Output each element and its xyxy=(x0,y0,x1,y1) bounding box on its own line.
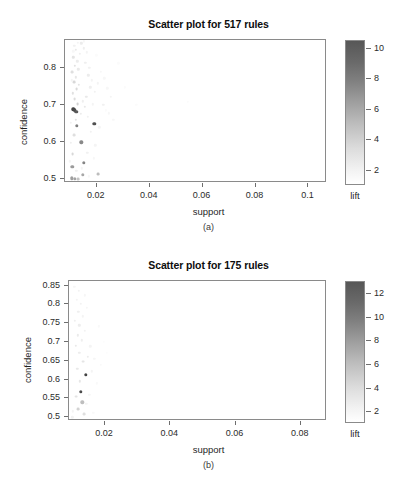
scatter-point xyxy=(82,100,84,102)
y-axis-tick xyxy=(64,416,68,417)
colorbar-tick-label: 4 xyxy=(374,383,379,393)
colorbar-tick-label: 12 xyxy=(374,288,384,298)
y-axis-tick xyxy=(60,141,64,142)
scatter-point xyxy=(91,79,93,81)
scatter-point xyxy=(79,53,81,55)
scatter-point xyxy=(123,86,125,88)
colorbar-tick xyxy=(366,109,371,110)
y-axis-tick-label: 0.5 xyxy=(26,411,60,421)
scatter-point xyxy=(77,68,79,70)
scatter-point xyxy=(72,92,74,94)
colorbar-tick xyxy=(366,78,371,79)
scatter-point xyxy=(86,51,88,53)
colorbar-tick xyxy=(366,293,371,294)
y-axis-tick-label: 0.5 xyxy=(22,173,56,183)
scatter-point xyxy=(91,370,93,372)
scatter-point xyxy=(83,47,85,49)
y-axis-tick-label: 0.75 xyxy=(26,317,60,327)
scatter-point xyxy=(84,329,86,331)
y-axis-tick xyxy=(64,379,68,380)
scatter-point xyxy=(105,351,107,353)
scatter-point xyxy=(87,175,89,177)
scatter-point xyxy=(102,341,104,343)
x-axis-title-a: support xyxy=(0,206,417,217)
scatter-point xyxy=(80,42,82,44)
scatter-point xyxy=(78,83,80,85)
x-axis-tick xyxy=(235,421,236,425)
scatter-point xyxy=(69,142,71,144)
x-axis-tick-label: 0.08 xyxy=(291,428,309,438)
scatter-point xyxy=(75,76,77,78)
scatter-points-a xyxy=(65,40,325,181)
scatter-point xyxy=(74,65,76,67)
scatter-points-b xyxy=(69,281,325,419)
scatter-point xyxy=(72,56,74,58)
y-axis-tick-label: 0.55 xyxy=(26,392,60,402)
scatter-point xyxy=(98,325,100,327)
x-axis-tick xyxy=(96,183,97,187)
scatter-point xyxy=(87,116,89,118)
x-axis-tick xyxy=(169,421,170,425)
y-axis-tick xyxy=(64,303,68,304)
scatter-point xyxy=(87,356,89,358)
scatter-point xyxy=(96,382,98,384)
colorbar-tick-label: 6 xyxy=(374,104,379,114)
scatter-point xyxy=(77,178,80,181)
colorbar-tick-label: 8 xyxy=(374,73,379,83)
scatter-point xyxy=(112,119,114,121)
x-axis-tick-label: 0.04 xyxy=(160,428,178,438)
plot-area-b[interactable] xyxy=(68,280,326,420)
scatter-point xyxy=(109,96,111,98)
x-axis-tick xyxy=(255,183,256,187)
scatter-point xyxy=(80,140,83,143)
scatter-point xyxy=(81,339,83,341)
scatter-point xyxy=(98,126,100,128)
scatter-point xyxy=(76,41,78,43)
scatter-point xyxy=(82,161,85,164)
scatter-point xyxy=(102,104,104,106)
y-axis-tick-label: 0.8 xyxy=(22,62,56,72)
scatter-point xyxy=(81,400,84,403)
colorbar-tick xyxy=(366,340,371,341)
scatter-point xyxy=(75,88,78,91)
scatter-point xyxy=(83,294,85,296)
scatter-point xyxy=(190,119,192,121)
x-axis-tick xyxy=(149,183,150,187)
scatter-point xyxy=(75,170,77,172)
scatter-point xyxy=(85,403,87,405)
scatter-point xyxy=(88,67,90,69)
lift-legend-title-a: lift xyxy=(335,190,375,201)
y-axis-title-b: confidence xyxy=(22,337,33,383)
x-axis-tick-label: 0.08 xyxy=(246,190,264,200)
colorbar-tick xyxy=(366,411,371,412)
scatter-point xyxy=(78,290,80,292)
colorbar-tick-label: 10 xyxy=(374,43,384,53)
lift-legend-title-b: lift xyxy=(335,428,375,439)
x-axis-tick xyxy=(202,183,203,187)
y-axis-tick xyxy=(64,341,68,342)
x-axis-tick xyxy=(104,421,105,425)
scatter-point xyxy=(70,122,72,124)
scatter-point xyxy=(71,71,74,74)
lift-colorbar-b xyxy=(345,281,365,423)
x-axis-tick-label: 0.06 xyxy=(226,428,244,438)
scatter-point xyxy=(77,334,79,336)
scatter-point xyxy=(88,393,90,395)
subcaption-b: (b) xyxy=(0,460,417,470)
scatter-point xyxy=(79,380,81,382)
scatter-point xyxy=(82,360,85,363)
scatter-point xyxy=(74,345,76,347)
colorbar-tick xyxy=(366,48,371,49)
scatter-point xyxy=(74,320,76,322)
lift-colorbar-a xyxy=(345,40,365,185)
colorbar-tick-label: 8 xyxy=(374,335,379,345)
scatter-point xyxy=(89,86,91,88)
x-axis-tick-label: 0.1 xyxy=(301,190,314,200)
colorbar-tick xyxy=(366,317,371,318)
y-axis-tick xyxy=(64,285,68,286)
scatter-point xyxy=(74,48,76,50)
plot-area-a[interactable] xyxy=(64,39,326,182)
chart-title-b: Scatter plot for 175 rules xyxy=(0,259,417,271)
scatter-point xyxy=(81,173,84,176)
scatter-point xyxy=(93,358,95,360)
